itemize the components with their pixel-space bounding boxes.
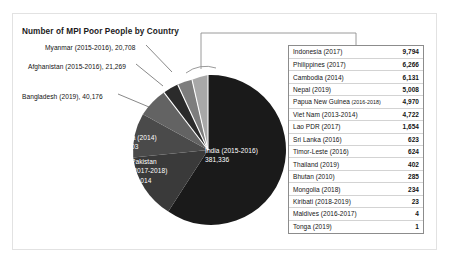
table-cell-value: 1: [381, 220, 423, 232]
table-row: Lao PDR (2017)1,654: [289, 121, 423, 133]
table-cell-country: Mongolia (2018): [289, 183, 381, 195]
table-cell-year: (2016-2018): [350, 99, 381, 105]
table-row: Sri Lanka (2016)623: [289, 133, 423, 145]
table-cell-country: Indonesia (2017): [289, 46, 381, 58]
pie-label-china-name: China (2014): [118, 133, 157, 142]
callout-table-body: Indonesia (2017)9,794Philippines (2017)6…: [289, 46, 423, 233]
table-cell-value: 4: [381, 208, 423, 220]
table-cell-country: Cambodia (2014): [289, 71, 381, 83]
table-cell-value: 23: [381, 195, 423, 207]
table-row: Papua New Guinea (2016-2018)4,970: [289, 96, 423, 108]
table-cell-value: 234: [381, 183, 423, 195]
page-title: Number of MPI Poor People by Country: [22, 27, 179, 36]
pie-label-china: China (2014) 55,703: [118, 133, 157, 152]
table-row: Cambodia (2014)6,131: [289, 71, 423, 83]
table-row: Indonesia (2017)9,794: [289, 46, 423, 58]
table-cell-value: 5,008: [381, 83, 423, 95]
table-cell-value: 623: [381, 133, 423, 145]
table-row: Bhutan (2010)285: [289, 170, 423, 182]
table-row: Kiribati (2018-2019)23: [289, 195, 423, 207]
table-row: Maldives (2016-2017)4: [289, 208, 423, 220]
pie-label-pakistan: Pakistan (2017-2018) 83,014: [131, 157, 167, 185]
pie-label-afghanistan: Afghanistan (2015-2016), 21,269: [28, 63, 126, 70]
pie-label-bangladesh: Bangladesh (2019), 40,176: [22, 93, 103, 100]
table-cell-value: 6,266: [381, 58, 423, 70]
table-cell-value: 6,131: [381, 71, 423, 83]
table-row: Tonga (2019)1: [289, 220, 423, 232]
table-row: Mongolia (2018)234: [289, 183, 423, 195]
table-cell-country: Timor-Leste (2016): [289, 146, 381, 158]
table-cell-value: 402: [381, 158, 423, 170]
pie-label-pakistan-value: 83,014: [131, 176, 167, 185]
pie-label-myanmar: Myanmar (2015-2016), 20,708: [45, 44, 135, 51]
table-cell-country: Philippines (2017): [289, 58, 381, 70]
table-cell-value: 9,794: [381, 46, 423, 58]
table-cell-country: Kiribati (2018-2019): [289, 195, 381, 207]
pie-label-india-value: 381,336: [205, 155, 258, 164]
table-cell-country: Sri Lanka (2016): [289, 133, 381, 145]
table-cell-value: 624: [381, 146, 423, 158]
table-cell-country: Nepal (2019): [289, 83, 381, 95]
callout-data-table: Indonesia (2017)9,794Philippines (2017)6…: [288, 45, 424, 234]
table-cell-country: Papua New Guinea (2016-2018): [289, 96, 381, 108]
table-cell-value: 4,970: [381, 96, 423, 108]
table-cell-country: Lao PDR (2017): [289, 121, 381, 133]
table-cell-country: Bhutan (2010): [289, 170, 381, 182]
table-cell-value: 285: [381, 170, 423, 182]
table-cell-value: 4,722: [381, 108, 423, 120]
table-cell-country: Viet Nam (2013-2014): [289, 108, 381, 120]
pie-label-pakistan-year: (2017-2018): [131, 166, 167, 175]
table-cell-country: Tonga (2019): [289, 220, 381, 232]
pie-label-china-value: 55,703: [118, 142, 157, 151]
pie-label-india: India (2015-2016) 381,336: [205, 146, 258, 165]
table-cell-country: Maldives (2016-2017): [289, 208, 381, 220]
table-row: Philippines (2017)6,266: [289, 58, 423, 70]
pie-label-pakistan-name: Pakistan: [131, 157, 167, 166]
pie-label-india-name: India (2015-2016): [205, 146, 258, 155]
table-row: Timor-Leste (2016)624: [289, 146, 423, 158]
table-row: Thailand (2019)402: [289, 158, 423, 170]
callout-table: Indonesia (2017)9,794Philippines (2017)6…: [289, 46, 423, 233]
table-cell-country: Thailand (2019): [289, 158, 381, 170]
table-row: Viet Nam (2013-2014)4,722: [289, 108, 423, 120]
table-row: Nepal (2019)5,008: [289, 83, 423, 95]
table-cell-value: 1,654: [381, 121, 423, 133]
